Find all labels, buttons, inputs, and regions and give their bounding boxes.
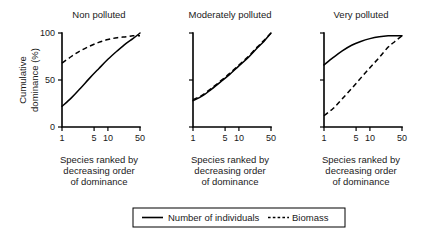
panel-3: Very polluted151050Species ranked bydecr… [320,9,407,187]
y-tick-label-50: 50 [45,75,55,85]
figure-container: Non polluted050100151050Species ranked b… [0,0,422,238]
legend-label-0: Number of individuals [168,212,260,223]
series-dashed-panel1 [62,36,140,63]
panel-axes-1 [62,33,140,127]
x-tick-label-5: 5 [92,133,97,143]
x-tick-label-50: 50 [266,133,276,143]
x-caption-line1-3: Species ranked by [322,154,400,165]
panel-1: Non polluted050100151050Species ranked b… [40,9,145,187]
y-tick-label-0: 0 [50,122,55,132]
cumulative-dominance-chart: Non polluted050100151050Species ranked b… [0,0,422,238]
x-caption-line2-3: decreasing order [325,165,396,176]
x-caption-line3-3: of dominance [332,176,389,187]
x-tick-label-1: 1 [190,133,195,143]
panel-axes-2 [193,33,271,127]
x-tick-label-5: 5 [354,133,359,143]
x-tick-label-10: 10 [365,133,375,143]
series-solid-panel2 [193,33,271,101]
panel-2: Moderately polluted151050Species ranked … [189,9,276,187]
panel-title-1: Non polluted [72,9,125,20]
legend-group: Number of individualsBiomass [133,208,345,227]
panel-title-2: Moderately polluted [189,9,272,20]
y-axis-title-line1: Cumulative [17,56,28,104]
panel-title-3: Very polluted [334,9,389,20]
series-solid-panel3 [324,36,402,65]
x-caption-line2-1: decreasing order [63,165,134,176]
series-dashed-panel2 [193,33,271,100]
x-tick-label-1: 1 [321,133,326,143]
x-tick-label-10: 10 [234,133,244,143]
x-caption-line3-1: of dominance [70,176,127,187]
x-caption-line1-2: Species ranked by [191,154,269,165]
x-caption-line2-2: decreasing order [194,165,265,176]
x-tick-label-50: 50 [135,133,145,143]
x-tick-label-10: 10 [103,133,113,143]
x-caption-line3-2: of dominance [201,176,258,187]
series-solid-panel1 [62,33,140,106]
x-tick-label-1: 1 [59,133,64,143]
x-caption-line1-1: Species ranked by [60,154,138,165]
series-dashed-panel3 [324,36,402,116]
y-tick-label-100: 100 [40,28,55,38]
x-tick-label-5: 5 [223,133,228,143]
y-axis-title-line2: dominance (%) [29,48,40,112]
legend-label-1: Biomass [292,212,329,223]
x-tick-label-50: 50 [397,133,407,143]
panels-group: Non polluted050100151050Species ranked b… [17,9,407,187]
panel-axes-3 [324,33,402,127]
